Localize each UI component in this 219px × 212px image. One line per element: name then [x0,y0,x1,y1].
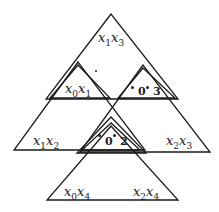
label-bottom-left: x0x4 [64,185,90,202]
center-number-b: 2 [120,136,128,147]
upper-number-a: 0 [138,86,146,97]
triangle-diagram: x1x3 x0x1 0 3 x1x2 0 2 x2x3 x0x4 x2x4 [0,0,219,212]
dot-marker [95,70,97,72]
center-number-a: 0 [105,136,113,147]
upper-number-b: 3 [153,86,161,97]
dot-marker [146,86,149,89]
label-middle-right: x2x3 [166,134,192,151]
label-middle-left: x1x2 [33,134,59,151]
label-left-small: x0x1 [65,82,91,99]
dot-marker [131,86,134,89]
label-top: x1x3 [98,31,124,48]
label-bottom-right: x2x4 [133,185,159,202]
dot-marker [113,134,116,137]
small-triangle-03 [118,68,175,98]
dot-marker [98,134,101,137]
